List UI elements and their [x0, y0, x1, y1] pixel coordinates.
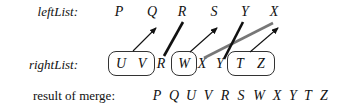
arrow-tz-to-x-icon	[250, 28, 278, 52]
result-item: Z	[320, 89, 328, 103]
result-item: R	[221, 89, 230, 103]
right-item-y: Y	[216, 57, 224, 71]
right-item-t: T	[236, 57, 244, 71]
result-item: U	[186, 89, 196, 103]
left-item-p: P	[115, 5, 124, 19]
left-item-q: Q	[147, 5, 157, 19]
result-item: P	[153, 89, 162, 103]
result-item: V	[204, 89, 213, 103]
result-item: T	[304, 89, 312, 103]
left-item-s: S	[211, 5, 218, 19]
right-item-w: W	[178, 57, 190, 71]
right-list-label: rightList:	[29, 57, 78, 73]
right-item-x: X	[198, 57, 207, 71]
right-item-r: R	[157, 57, 166, 71]
result-item: X	[273, 89, 282, 103]
left-item-r: R	[178, 5, 187, 19]
result-item: Y	[289, 89, 297, 103]
right-item-u: U	[116, 57, 126, 71]
right-item-z: Z	[257, 57, 265, 71]
left-list-label: leftList:	[38, 4, 78, 20]
result-item: Q	[169, 89, 179, 103]
left-item-x: X	[270, 5, 279, 19]
result-item: S	[238, 89, 245, 103]
right-item-v: V	[138, 57, 147, 71]
result-label: result of merge:	[33, 88, 115, 104]
result-item: W	[253, 89, 265, 103]
run-box-tz	[227, 51, 275, 76]
left-item-y: Y	[241, 5, 249, 19]
arrow-uv-to-q-icon	[133, 28, 156, 51]
arrow-w-to-s-icon	[190, 28, 217, 52]
